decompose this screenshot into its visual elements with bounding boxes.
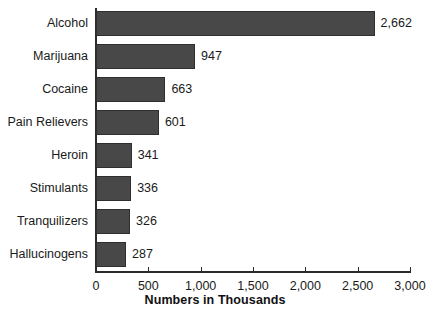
category-label: Stimulants [0, 176, 88, 201]
bar-value-label: 601 [165, 110, 186, 135]
x-tick-mark [201, 267, 202, 273]
bar-row: Stimulants336 [96, 173, 410, 206]
bar-chart: Alcohol2,662Marijuana947Cocaine663Pain R… [0, 0, 430, 316]
x-axis-title: Numbers in Thousands [0, 293, 430, 307]
category-label: Alcohol [0, 11, 88, 36]
x-tick-label: 0 [93, 279, 100, 293]
bar-row: Cocaine663 [96, 74, 410, 107]
bar-row: Heroin341 [96, 140, 410, 173]
x-tick-mark [96, 267, 97, 273]
x-tick-label: 1,000 [185, 279, 216, 293]
bar [96, 176, 131, 201]
x-tick-mark [410, 267, 411, 273]
bar [96, 209, 130, 234]
category-label: Marijuana [0, 44, 88, 69]
bar-value-label: 341 [138, 143, 159, 168]
plot-area: Alcohol2,662Marijuana947Cocaine663Pain R… [96, 8, 410, 272]
category-label: Hallucinogens [0, 242, 88, 267]
bar [96, 44, 195, 69]
bar-value-label: 663 [171, 77, 192, 102]
category-label: Pain Relievers [0, 110, 88, 135]
x-tick-mark [358, 267, 359, 273]
bar-value-label: 287 [132, 242, 153, 267]
bar-value-label: 326 [136, 209, 157, 234]
x-tick-label: 2,000 [290, 279, 321, 293]
bar-value-label: 336 [137, 176, 158, 201]
x-tick-mark [253, 267, 254, 273]
bar-row: Tranquilizers326 [96, 206, 410, 239]
category-label: Tranquilizers [0, 209, 88, 234]
bar [96, 11, 375, 36]
x-tick-mark [148, 267, 149, 273]
category-label: Cocaine [0, 77, 88, 102]
bar [96, 77, 165, 102]
bar [96, 143, 132, 168]
bar [96, 110, 159, 135]
bar-row: Alcohol2,662 [96, 8, 410, 41]
bar-row: Marijuana947 [96, 41, 410, 74]
x-tick-label: 1,500 [237, 279, 268, 293]
bar-value-label: 947 [201, 44, 222, 69]
bar-row: Pain Relievers601 [96, 107, 410, 140]
bar-value-label: 2,662 [381, 11, 412, 36]
x-tick-label: 500 [138, 279, 159, 293]
category-label: Heroin [0, 143, 88, 168]
x-tick-label: 2,500 [342, 279, 373, 293]
x-tick-label: 3,000 [394, 279, 425, 293]
bar [96, 242, 126, 267]
x-tick-mark [305, 267, 306, 273]
